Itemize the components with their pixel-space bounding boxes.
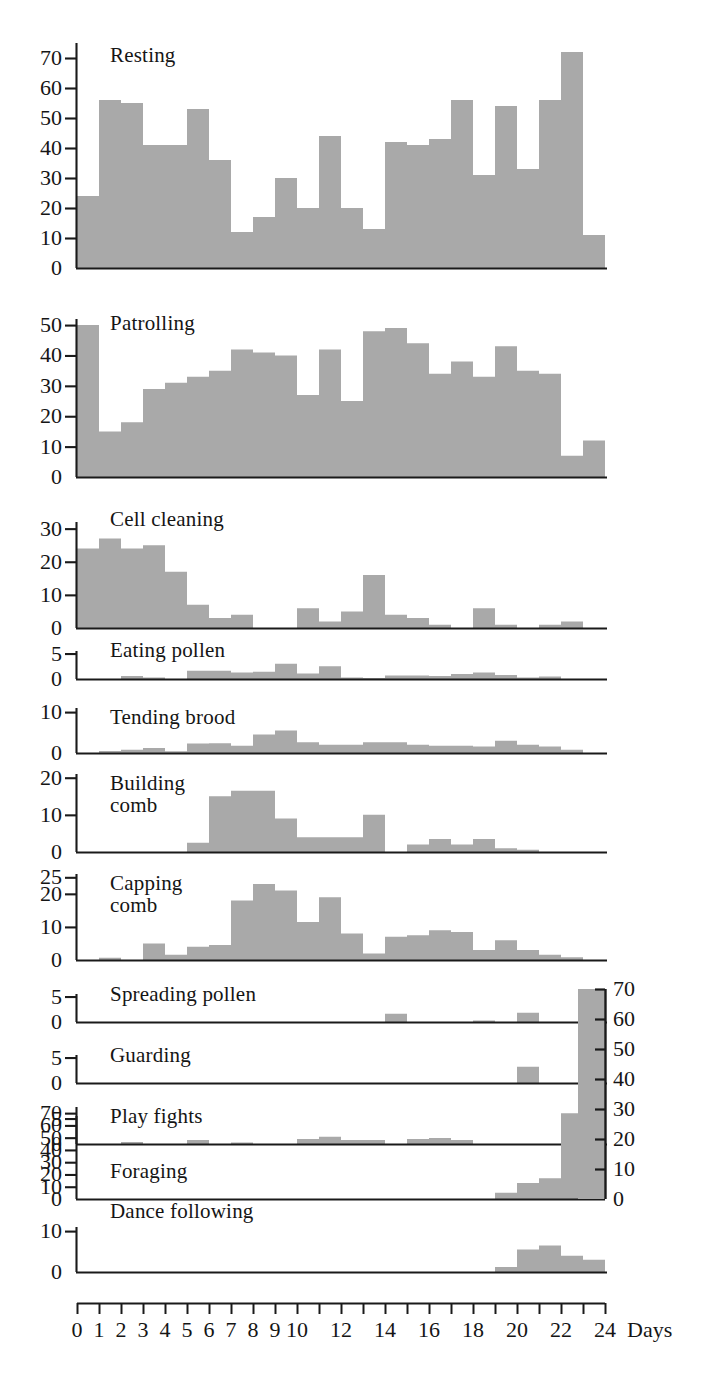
bee-behaviour-ethogram-figure: 010203040506070Resting01020304050Patroll…: [0, 0, 705, 1375]
x-axis: 01234567891012141618202224Days: [0, 0, 705, 1375]
